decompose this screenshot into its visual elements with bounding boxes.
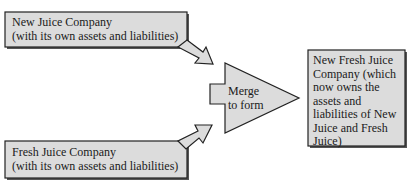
new-juice-title: New Juice Company — [12, 16, 178, 30]
result-line-6: Juice and Fresh — [313, 122, 396, 136]
result-line-2: Company (which — [313, 68, 396, 82]
fresh-juice-subtitle: (with its own assets and liabilities) — [12, 160, 178, 174]
fresh-juice-label: Fresh Juice Company (with its own assets… — [12, 146, 178, 173]
fresh-juice-arrow — [178, 125, 212, 149]
result-line-7: Juice) — [313, 135, 396, 149]
result-line-4: assets and — [313, 95, 396, 109]
new-juice-label: New Juice Company (with its own assets a… — [12, 16, 178, 43]
new-fresh-juice-label: New Fresh Juice Company (which now owns … — [313, 54, 396, 149]
result-line-3: now owns the — [313, 81, 396, 95]
merge-line-2: to form — [228, 99, 264, 113]
new-juice-arrow — [178, 40, 213, 64]
new-juice-subtitle: (with its own assets and liabilities) — [12, 30, 178, 44]
result-line-5: liabilities of New — [313, 108, 396, 122]
merge-line-1: Merge — [228, 85, 264, 99]
result-line-1: New Fresh Juice — [313, 54, 396, 68]
fresh-juice-title: Fresh Juice Company — [12, 146, 178, 160]
merge-label: Merge to form — [228, 85, 264, 112]
